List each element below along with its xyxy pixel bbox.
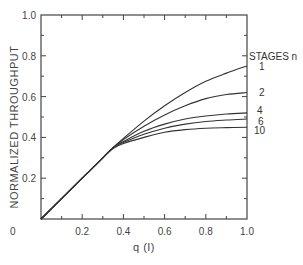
curve-label-2: 2 (259, 87, 265, 98)
x-tick-label: 0.6 (158, 226, 172, 237)
curve-stages-10 (41, 127, 247, 219)
chart: 00.20.40.60.81.00.20.40.60.81.0q (I)NORM… (0, 0, 303, 265)
x-tick-label: 0.2 (75, 226, 89, 237)
curve-label-1: 1 (259, 61, 265, 72)
y-tick-label: 0.6 (22, 92, 36, 103)
curve-stages-1 (41, 66, 247, 219)
curve-label-4: 4 (257, 105, 263, 116)
x-tick-label: 0.4 (116, 226, 130, 237)
curve-label-10: 10 (254, 125, 266, 136)
y-tick-label: 0.4 (22, 132, 36, 143)
y-tick-label: 1.0 (22, 10, 36, 21)
curves (41, 66, 247, 219)
y-axis-title: NORMALIZED THROUGHPUT (8, 45, 20, 208)
legend-title: STAGES n (249, 51, 297, 62)
x-tick-label: 1.0 (240, 226, 254, 237)
curve-stages-6 (41, 119, 247, 219)
x-tick-label: 0.8 (199, 226, 213, 237)
y-tick-label: 0.2 (22, 173, 36, 184)
x-tick-label: 0 (10, 226, 16, 237)
curve-stages-2 (41, 93, 247, 219)
y-tick-label: 0.8 (22, 51, 36, 62)
curve-stages-4 (41, 113, 247, 219)
x-axis-title: q (I) (133, 241, 155, 253)
